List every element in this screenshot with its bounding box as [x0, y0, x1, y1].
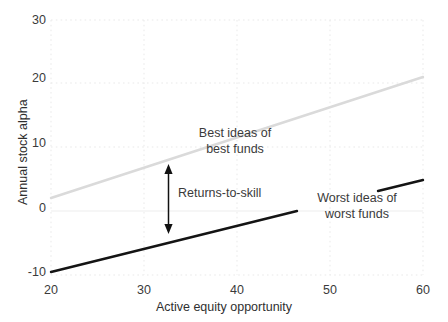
annotation-best-ideas: Best ideas of best funds — [176, 125, 294, 157]
annotation-best-ideas-line2: best funds — [176, 141, 294, 157]
returns-to-skill-arrow-head-bottom — [164, 224, 172, 234]
annotation-worst-ideas: Worst ideas of worst funds — [298, 190, 416, 222]
returns-to-skill-arrow — [164, 164, 172, 234]
x-tick-label-30: 30 — [124, 283, 164, 297]
returns-to-skill-arrow-head-top — [164, 164, 172, 174]
x-tick-label-40: 40 — [217, 283, 257, 297]
annotation-returns-to-skill: Returns-to-skill — [178, 185, 261, 201]
y-tick-label-30: 30 — [2, 13, 46, 27]
x-tick-label-50: 50 — [310, 283, 350, 297]
x-axis-title: Active equity opportunity — [0, 300, 448, 314]
series-line-worst-ideas-left — [51, 211, 297, 272]
y-axis-title: Annual stock alpha — [16, 99, 30, 205]
x-tick-label-60: 60 — [403, 283, 443, 297]
annotation-worst-ideas-line1: Worst ideas of — [298, 190, 416, 206]
chart-plot-area — [0, 0, 448, 322]
chart-container: 30 20 10 0 -10 20 30 40 50 60 Annual sto… — [0, 0, 448, 322]
y-tick-label-20: 20 — [2, 71, 46, 85]
annotation-worst-ideas-line2: worst funds — [298, 206, 416, 222]
annotation-best-ideas-line1: Best ideas of — [176, 125, 294, 141]
x-tick-label-20: 20 — [31, 283, 71, 297]
y-tick-label-neg10: -10 — [2, 265, 46, 279]
